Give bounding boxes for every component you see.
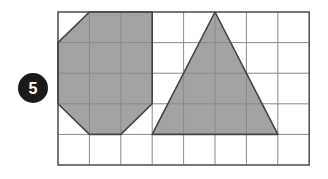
problem-number: 5 — [29, 80, 38, 97]
problem-number-badge: 5 — [18, 73, 48, 103]
grid-figure: 5 — [0, 0, 328, 179]
